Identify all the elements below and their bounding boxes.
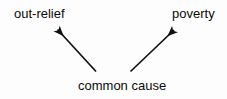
- node-label-out-relief: out-relief: [14, 7, 65, 21]
- node-label-common-cause: common cause: [78, 79, 166, 93]
- edge-cause-to-poverty: [131, 30, 175, 72]
- edge-cause-to-out-relief: [58, 30, 97, 72]
- diagram-canvas: out-relief poverty common cause: [0, 0, 227, 99]
- node-label-poverty: poverty: [172, 7, 215, 21]
